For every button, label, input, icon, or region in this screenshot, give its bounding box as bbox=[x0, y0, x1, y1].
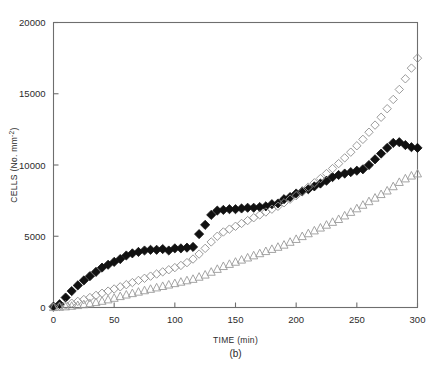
data-point bbox=[195, 230, 204, 239]
data-point bbox=[328, 164, 336, 172]
data-point bbox=[407, 64, 415, 72]
x-tick-label: 250 bbox=[349, 314, 365, 325]
data-point bbox=[334, 159, 342, 167]
data-point bbox=[359, 135, 367, 143]
data-point bbox=[370, 155, 379, 164]
x-tick-label: 150 bbox=[228, 314, 244, 325]
data-point bbox=[67, 287, 76, 296]
y-axis-ticks: 05000100001500020000 bbox=[19, 17, 58, 313]
figure-panel: 050100150200250300 05000100001500020000 … bbox=[0, 0, 436, 368]
data-point bbox=[237, 219, 245, 227]
data-point bbox=[371, 121, 379, 129]
x-tick-label: 200 bbox=[288, 314, 304, 325]
y-tick-label: 20000 bbox=[19, 17, 45, 28]
y-axis-title: CELLS (No. mm-2) bbox=[8, 127, 19, 202]
data-point bbox=[188, 242, 197, 251]
data-point bbox=[365, 128, 373, 136]
data-point bbox=[341, 154, 349, 162]
data-point bbox=[207, 238, 215, 246]
data-point bbox=[377, 113, 385, 121]
x-tick-label: 50 bbox=[109, 314, 120, 325]
data-point bbox=[383, 105, 391, 113]
data-point bbox=[201, 244, 209, 252]
data-point bbox=[395, 85, 403, 93]
data-point bbox=[389, 95, 397, 103]
data-point bbox=[231, 222, 239, 230]
x-tick-label: 300 bbox=[410, 314, 426, 325]
data-point bbox=[377, 149, 386, 158]
x-axis-title: TIME (min) bbox=[213, 335, 258, 345]
data-point bbox=[201, 220, 210, 229]
y-tick-label: 10000 bbox=[19, 160, 45, 171]
x-axis-ticks: 050100150200250300 bbox=[51, 303, 426, 325]
data-point bbox=[353, 142, 361, 150]
data-point bbox=[243, 216, 251, 224]
data-point bbox=[225, 225, 233, 233]
data-series-group bbox=[49, 54, 422, 311]
data-point bbox=[347, 148, 355, 156]
x-tick-label: 100 bbox=[167, 314, 183, 325]
y-tick-label: 15000 bbox=[19, 88, 45, 99]
filled-diamond-series bbox=[49, 138, 422, 312]
data-point bbox=[250, 214, 258, 222]
figure-caption: (b) bbox=[229, 348, 241, 359]
axis-labels: TIME (min)CELLS (No. mm-2)(b) bbox=[8, 127, 258, 359]
data-point bbox=[195, 250, 203, 258]
y-tick-label: 5000 bbox=[24, 231, 45, 242]
y-tick-label: 0 bbox=[40, 302, 45, 313]
data-point bbox=[413, 143, 422, 152]
data-point bbox=[401, 75, 409, 83]
scatter-chart: 050100150200250300 05000100001500020000 … bbox=[0, 0, 436, 368]
open-diamond-series bbox=[49, 54, 421, 311]
x-tick-label: 0 bbox=[51, 314, 56, 325]
